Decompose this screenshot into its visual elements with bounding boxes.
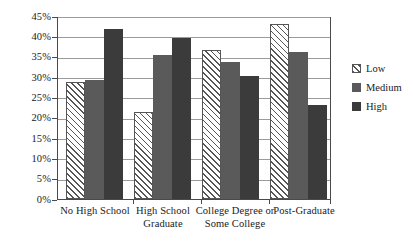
bar-group [202,17,262,199]
legend-swatch-low-icon [352,64,361,73]
bar-medium [85,80,104,199]
y-tick-label: 0% [5,195,51,205]
y-tick-label: 45% [5,12,51,22]
legend-item-medium: Medium [352,79,410,96]
y-tick-label: 35% [5,52,51,62]
x-tick-mark [201,200,202,204]
legend: Low Medium High [352,60,410,117]
bar-low [134,112,153,199]
bar-medium [289,52,308,199]
bar-low [270,24,289,199]
legend-label: High [366,101,387,112]
legend-swatch-high-icon [352,102,361,111]
x-label-line: Post-Graduate [266,205,342,218]
y-tick-label: 25% [5,93,51,103]
bar-chart: 45% 40% 35% 30% 25% 20% 15% 10% 5% 0% [0,0,413,251]
bar-group [134,17,194,199]
y-tick-mark [52,200,57,201]
legend-swatch-medium-icon [352,83,361,92]
bar-high [172,38,191,199]
x-tick-mark [133,200,134,204]
y-tick-label: 5% [5,174,51,184]
legend-label: Low [366,63,385,74]
bar-low [66,82,85,199]
bar-medium [221,62,240,199]
x-label-post-graduate: Post-Graduate [266,205,342,218]
x-tick-mark [269,200,270,204]
x-label-line: No High School [57,205,133,218]
bar-group [66,17,126,199]
y-tick-label: 10% [5,154,51,164]
x-label-no-high-school: No High School [57,205,133,218]
x-label-line: Some College [190,218,280,231]
plot-area [57,17,331,200]
y-tick-label: 30% [5,73,51,83]
bar-group [270,17,330,199]
legend-item-high: High [352,98,410,115]
y-tick-label: 15% [5,134,51,144]
x-tick-mark [330,200,331,204]
y-tick-label: 20% [5,113,51,123]
legend-item-low: Low [352,60,410,77]
bar-high [240,76,259,199]
bar-low [202,50,221,199]
bar-medium [153,55,172,199]
y-tick-label: 40% [5,32,51,42]
legend-label: Medium [366,82,402,93]
bar-high [308,105,327,199]
bar-high [104,29,123,199]
